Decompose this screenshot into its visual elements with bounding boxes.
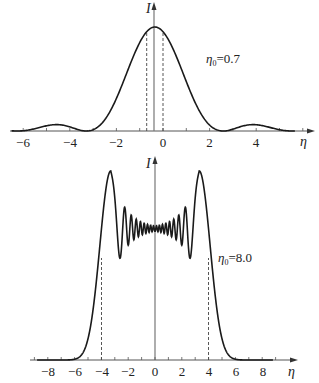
figure: −6 −4 −2 0 2 4 I η η0=0.7 −8 −6 −4 −2 0 …: [0, 0, 319, 383]
top-parameter-annotation: η0=0.7: [206, 51, 241, 68]
top-x-axis-arrow-icon: [307, 129, 315, 134]
bottom-x-axis-arrow-icon: [290, 358, 298, 363]
top-tick-label: −6: [16, 135, 30, 150]
bottom-tick-label: −2: [121, 364, 135, 379]
top-y-axis-arrow-icon: [152, 2, 157, 10]
bottom-x-axis-label: η: [288, 364, 295, 379]
bottom-tick-label: 6: [233, 364, 240, 379]
top-chart: −6 −4 −2 0 2 4 I η η0=0.7: [10, 1, 315, 150]
top-tick-label: 0: [160, 135, 167, 150]
bottom-tick-label: −8: [41, 364, 55, 379]
bottom-tick-label: 4: [206, 364, 213, 379]
bottom-chart: −8 −6 −4 −2 0 2 4 6 8 I η η0=8.0: [30, 156, 298, 379]
top-tick-label: −2: [109, 135, 123, 150]
top-tick-label: −4: [63, 135, 77, 150]
bottom-tick-label: −6: [68, 364, 82, 379]
bottom-y-axis-label: I: [145, 156, 152, 171]
top-tick-label: 2: [206, 135, 213, 150]
top-tick-label: 4: [253, 135, 260, 150]
bottom-y-axis-arrow-icon: [153, 156, 158, 164]
bottom-tick-label: −4: [95, 364, 109, 379]
bottom-tick-label: 0: [152, 364, 159, 379]
bottom-tick-label: 2: [179, 364, 186, 379]
top-x-axis-label: η: [300, 134, 307, 149]
top-y-axis-label: I: [145, 1, 152, 16]
bottom-tick-label: 8: [260, 364, 267, 379]
bottom-parameter-annotation: η0=8.0: [218, 250, 252, 267]
top-intensity-curve: [12, 27, 295, 131]
